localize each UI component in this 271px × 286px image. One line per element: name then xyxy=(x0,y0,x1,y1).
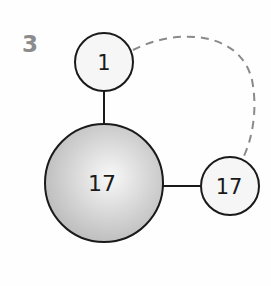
node-center-label: 17 xyxy=(88,171,116,196)
figure-label: 3 xyxy=(22,31,38,57)
node-right-label: 17 xyxy=(216,175,243,199)
graph-diagram: 3 1 17 17 xyxy=(0,0,271,286)
diagram-canvas: 3 1 17 17 xyxy=(0,0,271,286)
node-top-label: 1 xyxy=(97,51,110,75)
dashed-edge-top-right xyxy=(133,37,254,158)
